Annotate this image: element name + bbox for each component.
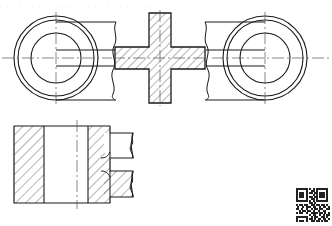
right-boss-centerlines: [212, 12, 330, 106]
top-view-group: [2, 8, 330, 108]
right-body-outline: [205, 22, 265, 100]
drawing-sheet: - - - - - - - - - - - - - - - - - - - - …: [0, 0, 332, 226]
front-view-group: [10, 120, 140, 210]
technical-drawing-canvas: [0, 0, 332, 226]
qr-code-watermark: [296, 188, 330, 222]
